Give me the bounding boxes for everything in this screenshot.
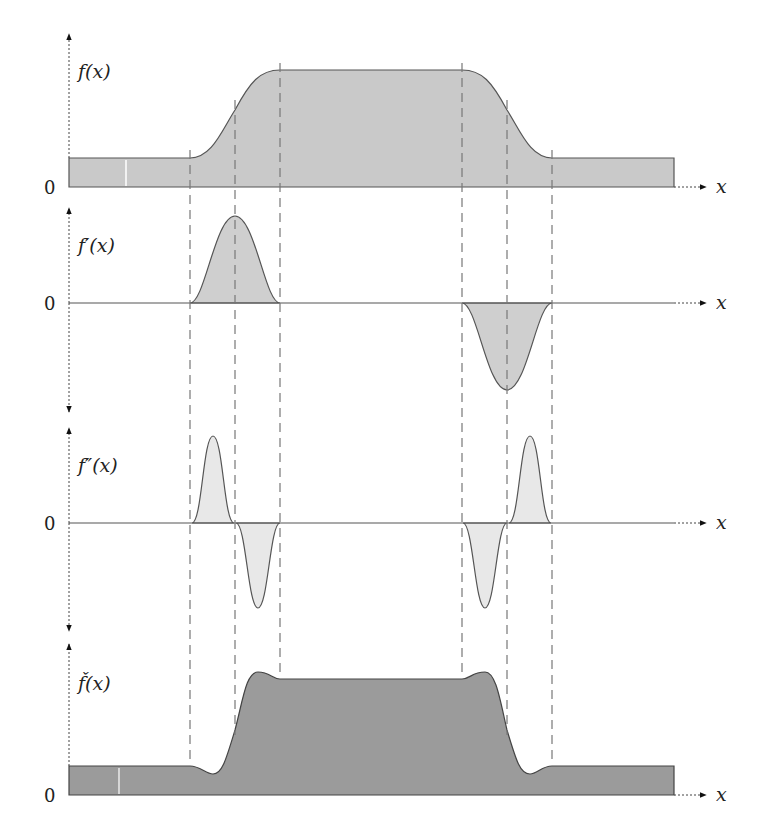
fpp-x-label: x [716,511,727,533]
panel-fdoubleprime: f″(x) 0 x [44,428,727,631]
f-curve-fill [69,70,674,187]
fsharp-zero-label: 0 [44,785,55,806]
fsharp-curve-fill [69,672,674,795]
panel-fprime: f′(x) 0 x [44,208,727,412]
fpp-zero-label: 0 [44,513,55,534]
fpp-lobe-4-positive [509,436,551,523]
f-x-label: x [716,175,727,197]
fprime-x-label: x [716,291,727,313]
f-zero-label: 0 [44,177,55,198]
fprime-zero-label: 0 [44,293,55,314]
fprime-label: f′(x) [76,234,115,256]
edge-sharpening-diagram: f(x) 0 x f′(x) 0 x f″(x) 0 x f̌(x) 0 [0,0,773,840]
fpp-lobe-2-negative [236,523,280,608]
fsharp-label: f̌(x) [76,672,111,694]
fpp-lobe-3-negative [463,523,507,608]
panel-fsharp: f̌(x) 0 x [44,644,727,806]
fpp-label: f″(x) [76,454,118,476]
fsharp-x-label: x [716,783,727,805]
fpp-lobe-1-positive [192,436,234,523]
fprime-positive-lobe [190,216,280,303]
panel-f: f(x) 0 x [44,34,727,198]
f-label: f(x) [76,60,111,82]
